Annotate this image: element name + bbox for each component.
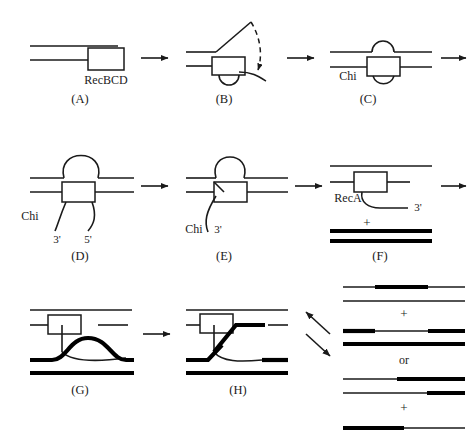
- reca-label: RecA: [334, 191, 362, 205]
- crossed-strand: [214, 352, 262, 361]
- outcome-group-patch-partner: [343, 331, 465, 344]
- panel-A: RecBCD (A): [30, 46, 128, 106]
- panel-E: Chi 3' (E): [185, 157, 288, 263]
- lower-loop: [219, 75, 239, 85]
- five-prime-tail: [88, 202, 95, 231]
- outcome-group-patch: [343, 287, 465, 301]
- plus-sign: +: [363, 215, 370, 230]
- outcome-products: + or +: [343, 287, 465, 428]
- upper-loop: [63, 156, 99, 179]
- dna-strand-peeling: [216, 22, 251, 52]
- plus-sign-1: +: [400, 306, 407, 321]
- panel-label-g: (G): [71, 383, 88, 397]
- recbcd-enzyme-box: [367, 57, 400, 76]
- dashed-curved-arrow-icon: [251, 22, 260, 70]
- recombination-figure: RecBCD (A) (B) Chi (C) C: [0, 0, 471, 443]
- plus-sign-2: +: [400, 400, 407, 415]
- branch-arrow-down-icon: [306, 334, 330, 356]
- recbcd-enzyme-box: [214, 182, 247, 202]
- chi-site-label: Chi: [185, 222, 203, 236]
- panel-label-e: (E): [216, 249, 232, 263]
- panel-H: (H): [186, 310, 288, 397]
- recbcd-enzyme-box: [62, 182, 95, 202]
- reca-enzyme-box: [200, 314, 233, 333]
- reca-enzyme-box: [354, 172, 387, 192]
- three-prime-tail: [55, 202, 66, 231]
- panel-label-d: (D): [71, 249, 88, 263]
- panel-label-h: (H): [229, 383, 246, 397]
- three-prime-tail: [362, 192, 408, 208]
- panel-B: (B): [186, 22, 266, 106]
- or-separator: or: [399, 353, 409, 367]
- panel-G: (G): [30, 310, 134, 397]
- upper-loop: [215, 157, 245, 178]
- pathway-diagram: RecBCD (A) (B) Chi (C) C: [0, 0, 471, 443]
- three-prime-label: 3': [414, 201, 422, 213]
- branch-arrow-up-icon: [306, 312, 330, 334]
- panel-label-b: (B): [216, 92, 233, 106]
- panel-label-f: (F): [372, 249, 387, 263]
- five-prime-label: 5': [84, 233, 92, 245]
- reca-enzyme-box: [48, 315, 81, 334]
- panel-label-c: (C): [360, 92, 377, 106]
- chi-site-label: Chi: [21, 209, 39, 223]
- panel-D: Chi 3' 5' (D): [21, 156, 134, 264]
- recbcd-enzyme-box: [88, 48, 124, 70]
- three-prime-label: 3': [214, 223, 222, 235]
- lower-loop: [373, 76, 394, 84]
- upper-loop: [372, 41, 394, 52]
- recbcd-label: RecBCD: [84, 73, 128, 87]
- three-prime-label: 3': [53, 233, 61, 245]
- outcome-group-crossover: [343, 379, 465, 393]
- chi-site-label: Chi: [339, 69, 357, 83]
- d-loop-displaced-strand: [30, 338, 134, 360]
- panel-label-a: (A): [71, 92, 88, 106]
- panel-F: RecA 3' + (F): [330, 166, 432, 263]
- panel-C: Chi (C): [330, 41, 432, 106]
